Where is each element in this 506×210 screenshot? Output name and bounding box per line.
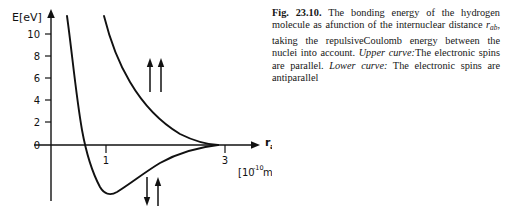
spin-down-arrow-icon — [144, 177, 150, 206]
y-tick-label-4: 4 — [34, 95, 40, 106]
y-axis-arrowhead — [47, 9, 55, 18]
spin-up-arrow-icon — [155, 177, 161, 206]
spin-up-arrow-icon — [147, 58, 153, 92]
figure-caption: Fig. 23.10. The bonding energy of the hy… — [272, 7, 500, 84]
y-axis-ticks — [45, 34, 51, 122]
antiparallel-spin-arrows-annotation — [144, 177, 161, 206]
caption-line-2a: function of the internuclear distance — [330, 19, 486, 30]
y-tick-label-0: 0 — [34, 140, 40, 151]
y-tick-label-8: 8 — [34, 51, 40, 62]
y-axis-title: E[eV] — [12, 11, 42, 24]
figure-chart-panel: 10 8 6 4 2 0 E[eV] 1 3 r ab [10 -10 m] — [0, 0, 272, 210]
curve-antiparallel-spins — [67, 16, 218, 194]
caption-line-4b: The electronic — [387, 60, 455, 71]
caption-upper-curve-emphasis: Upper curve: — [359, 47, 415, 58]
x-tick-label-3: 3 — [222, 155, 228, 166]
y-tick-label-10: 10 — [27, 29, 40, 40]
caption-figure-number: Fig. 23.10. — [272, 7, 321, 18]
potential-energy-curve-chart: 10 8 6 4 2 0 E[eV] 1 3 r ab [10 -10 m] — [0, 0, 272, 210]
y-tick-label-6: 6 — [34, 73, 40, 84]
x-axis-units-suffix: m] — [263, 167, 272, 178]
caption-lower-curve-emphasis: Lower curve: — [329, 60, 387, 71]
y-tick-label-2: 2 — [34, 117, 40, 128]
x-axis-units: [10 -10 m] — [238, 164, 272, 178]
y-axis — [47, 9, 55, 201]
x-axis-title-subscript: ab — [270, 143, 272, 151]
x-axis-arrowhead — [251, 141, 260, 149]
x-axis-title: r ab — [265, 136, 272, 151]
x-axis — [34, 141, 260, 149]
parallel-spin-arrows-annotation — [147, 58, 164, 92]
spin-up-arrow-icon — [158, 58, 164, 92]
y-axis-tick-labels: 10 8 6 4 2 0 — [27, 29, 40, 151]
x-tick-label-1: 1 — [103, 155, 109, 166]
